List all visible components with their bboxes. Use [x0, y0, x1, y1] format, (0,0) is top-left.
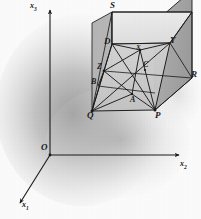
vertex-label-Y: Y — [170, 36, 176, 45]
vertex-label-A: A — [130, 96, 135, 104]
cube-axes-diagram — [0, 0, 201, 219]
vertex-dot-C — [144, 69, 146, 71]
axis-label-x1: x1 — [22, 201, 29, 211]
figure-canvas: x3 x2 x1 O S Q P R D Y Z C A B X — [0, 0, 201, 219]
vertex-label-B: B — [91, 78, 96, 86]
axis-label-x3: x3 — [30, 2, 37, 12]
origin-label: O — [41, 143, 48, 152]
origin-dot — [49, 154, 52, 157]
vertex-label-X: X — [136, 44, 141, 51]
vertex-label-R: R — [191, 70, 197, 79]
vertex-label-Z: Z — [97, 63, 102, 71]
axis-label-x2: x2 — [180, 160, 187, 170]
vertex-label-D: D — [104, 37, 111, 46]
vertex-label-P: P — [155, 111, 161, 120]
vertex-dot-Z — [103, 70, 106, 73]
vertex-label-C: C — [143, 61, 148, 69]
vertex-label-Q: Q — [87, 111, 94, 120]
vertex-label-S: S — [110, 1, 115, 10]
